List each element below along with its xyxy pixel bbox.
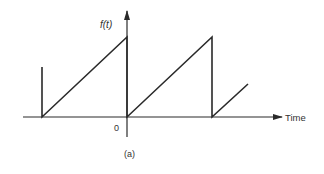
sawtooth-waveform [42,37,248,117]
sawtooth-diagram: f(t) 0 Time (a) [0,0,324,174]
x-axis-label: Time [285,112,306,123]
origin-label: 0 [114,123,119,133]
figure-caption: (a) [124,149,135,159]
y-axis-label: f(t) [100,19,112,30]
